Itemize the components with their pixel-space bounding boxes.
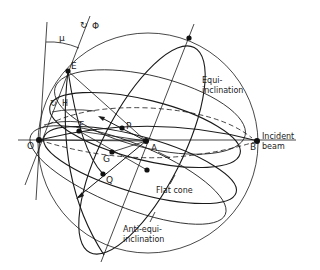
point-flat-cone xyxy=(144,167,149,172)
point-Q xyxy=(100,171,105,176)
label-mu: μ xyxy=(59,33,65,43)
point-G xyxy=(109,149,114,154)
label-incident-1: Incident xyxy=(262,132,294,142)
label-anti-1: Anti-equi- xyxy=(123,225,162,235)
label-H: H xyxy=(62,99,68,109)
label-B: B xyxy=(250,142,256,152)
label-Q: Q xyxy=(106,175,113,185)
point-top xyxy=(186,35,191,40)
point-P xyxy=(119,125,124,130)
label-E: E xyxy=(71,61,77,71)
arrowhead-upper-left-icon xyxy=(98,116,105,121)
rotation-axis-phi xyxy=(25,16,90,185)
label-O: O xyxy=(27,141,34,151)
label-equi-2: inclination xyxy=(202,86,243,96)
flat-cone-pointer-a xyxy=(158,152,170,158)
point-O xyxy=(36,137,42,143)
upper-layer-circle xyxy=(46,53,254,170)
label-P: P xyxy=(126,121,131,131)
label-incident-2: beam xyxy=(262,142,285,152)
rotation-arrow-h-icon: ↻ xyxy=(50,99,57,109)
label-equi-1: Equi- xyxy=(202,76,222,86)
upper-dashed-cone xyxy=(42,108,252,138)
label-phi: Φ xyxy=(92,21,99,31)
label-F: F xyxy=(79,120,84,130)
vertical-reference-line xyxy=(36,22,47,200)
label-anti-2: inclination xyxy=(123,235,164,245)
point-E xyxy=(65,68,70,73)
point-A xyxy=(143,138,149,144)
label-G: G xyxy=(103,154,110,164)
flat-cone-pointer xyxy=(170,175,175,184)
label-A: A xyxy=(151,143,157,153)
label-flat-cone: Flat cone xyxy=(156,186,193,196)
rotation-arrow-phi-icon: ↻ xyxy=(80,20,88,30)
